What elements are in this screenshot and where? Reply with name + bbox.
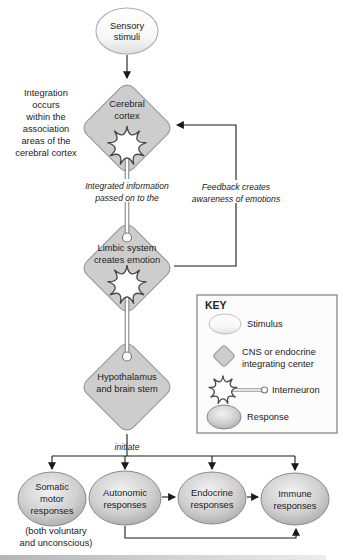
key-item-label: Response bbox=[247, 412, 289, 422]
key-item-label: CNS or endocrine bbox=[242, 347, 316, 357]
node-label-line: Somatic bbox=[35, 482, 69, 492]
key-item-label: Stimulus bbox=[247, 319, 283, 329]
figure-canvas: Sensory stimuli Cerebral cortex Limbic s… bbox=[0, 0, 343, 560]
key-title: KEY bbox=[205, 299, 227, 311]
note-line: Integration bbox=[24, 88, 68, 98]
node-label-line: responses bbox=[104, 500, 147, 510]
key-item-label: integrating center bbox=[242, 359, 314, 369]
feedback-label: Feedback creates bbox=[202, 182, 271, 192]
interneuron-bulb-icon bbox=[262, 387, 268, 393]
note-line: cerebral cortex bbox=[15, 148, 77, 158]
arrow-autonomic-to-immune-loop bbox=[125, 526, 296, 538]
node-label-line: Sensory bbox=[110, 21, 144, 31]
key-item-label: Interneuron bbox=[272, 385, 320, 395]
node-label-line: Autonomic bbox=[103, 488, 147, 498]
axon-terminal-bulb-icon bbox=[123, 233, 132, 242]
node-label-line: responses bbox=[191, 500, 234, 510]
note-line: areas of the bbox=[21, 136, 70, 146]
page-edge-strip bbox=[0, 555, 326, 560]
feedback-label: awareness of emotions bbox=[192, 194, 281, 204]
somatic-note-line: and unconscious) bbox=[20, 538, 93, 548]
key-box: KEY Stimulus CNS or endocrine integratin… bbox=[197, 295, 337, 433]
note-line: within the bbox=[25, 112, 65, 122]
node-label-line: Endocrine bbox=[191, 488, 233, 498]
autonomic-responses-node bbox=[89, 471, 161, 525]
node-label-line: responses bbox=[274, 501, 317, 511]
response-ellipse-icon bbox=[207, 405, 241, 429]
axon-terminal-bulb-icon bbox=[123, 352, 132, 361]
stimulus-ellipse-icon bbox=[209, 314, 241, 334]
node-label-line: Cerebral bbox=[109, 99, 145, 109]
node-label-line: Hypothalamus bbox=[97, 372, 157, 382]
endocrine-responses-node bbox=[178, 472, 246, 524]
node-label-line: motor bbox=[40, 494, 64, 504]
integration-note: Integration occurs within the associatio… bbox=[15, 88, 77, 158]
note-line: association bbox=[23, 124, 70, 134]
node-label-line: Immune bbox=[278, 489, 312, 499]
somatic-note-line: (both voluntary bbox=[25, 526, 87, 536]
sensory-stimuli-node bbox=[96, 8, 158, 54]
immune-responses-node bbox=[261, 473, 329, 525]
note-line: occurs bbox=[32, 100, 60, 110]
node-label-line: creates emotion bbox=[94, 255, 160, 265]
node-label-line: and brain stem bbox=[96, 384, 158, 394]
integrated-info-label: passed on to the bbox=[94, 193, 159, 203]
node-label-line: cortex bbox=[114, 111, 140, 121]
integrated-info-label: Integrated information bbox=[85, 181, 169, 191]
emotion-pathway-diagram: Sensory stimuli Cerebral cortex Limbic s… bbox=[0, 0, 343, 560]
node-label-line: Limbic system bbox=[98, 243, 157, 253]
node-label-line: responses bbox=[31, 506, 74, 516]
node-label-line: stimuli bbox=[114, 32, 140, 42]
